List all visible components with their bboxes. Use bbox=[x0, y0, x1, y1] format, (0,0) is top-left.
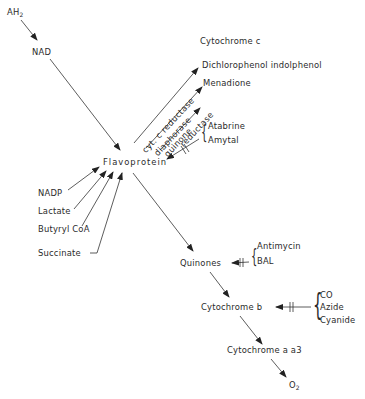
edge-succinate-flavo bbox=[97, 173, 122, 253]
node-cytochrome-aa3: Cytochrome a a3 bbox=[227, 345, 302, 355]
node-lactate: Lactate bbox=[38, 206, 71, 216]
node-dcip: Dichlorophenol indolphenol bbox=[202, 60, 322, 70]
inhibitor-co: CO bbox=[320, 290, 333, 300]
edge-aa3-o2 bbox=[271, 359, 286, 377]
node-cytochrome-c: Cytochrome c bbox=[200, 36, 261, 46]
edge-nadp-flavo bbox=[68, 167, 99, 190]
edge-ah2-nad bbox=[21, 20, 37, 40]
node-nadp: NADP bbox=[38, 188, 62, 198]
edge-lactate-flavo bbox=[74, 171, 106, 209]
electron-transport-diagram: AH2 NAD Flavoprotein Cytochrome c Dichlo… bbox=[0, 0, 365, 399]
node-flavoprotein: Flavoprotein bbox=[103, 157, 167, 167]
node-menadione: Menadione bbox=[203, 78, 251, 88]
node-nad: NAD bbox=[32, 47, 51, 57]
node-o2: O2 bbox=[289, 380, 300, 393]
edge-nad-flavoprotein bbox=[50, 59, 120, 150]
node-succinate: Succinate bbox=[38, 248, 81, 258]
inhibitor-atabrine: Atabrine bbox=[208, 121, 245, 131]
edge-inhibitor-quinones bbox=[232, 262, 249, 263]
inhibitor-bal: BAL bbox=[257, 256, 274, 266]
node-butyryl-coa: Butyryl CoA bbox=[38, 224, 90, 234]
edge-cytb-aa3 bbox=[240, 316, 262, 344]
brace-flavo-inhibitors: { bbox=[201, 122, 207, 142]
edge-quinones-cytb bbox=[210, 272, 229, 297]
inhibitor-amytal: Amytal bbox=[208, 135, 239, 145]
edge-flavo-quinones bbox=[133, 173, 193, 251]
inhibitor-antimycin: Antimycin bbox=[257, 241, 301, 251]
node-quinones: Quinones bbox=[180, 258, 221, 268]
inhibitor-cyanide: Cyanide bbox=[320, 315, 355, 325]
inhibitor-azide: Azide bbox=[320, 302, 344, 312]
node-cytochrome-b: Cytochrome b bbox=[201, 302, 262, 312]
node-ah2: AH2 bbox=[7, 7, 23, 20]
